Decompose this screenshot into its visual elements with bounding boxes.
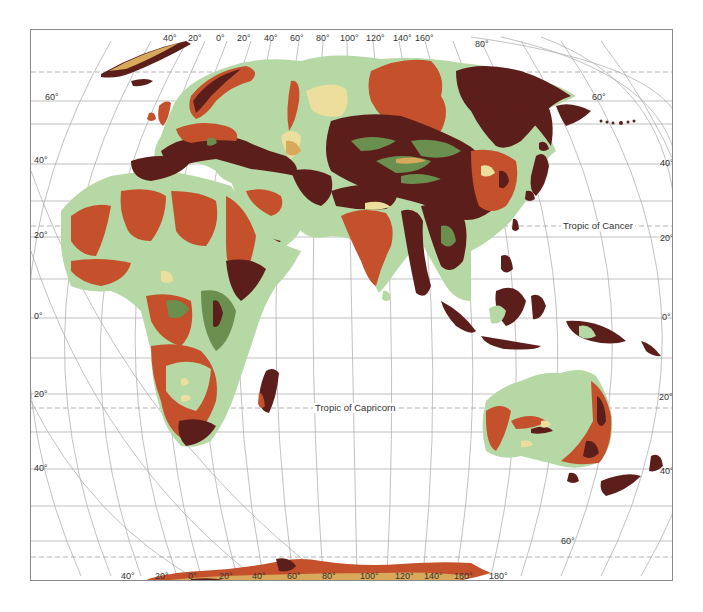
top-lon-label: 40° <box>264 34 278 43</box>
top-lon-label: 0° <box>216 34 225 43</box>
bottom-lon-label: 0° <box>188 572 197 581</box>
left-lat-label: 0° <box>34 312 43 321</box>
top-lon-label: 120° <box>366 34 385 43</box>
right-lat-label: 0° <box>662 313 671 322</box>
iceland <box>131 79 153 86</box>
map-frame: Tropic of Cancer Tropic of Capricorn 40°… <box>30 29 673 581</box>
bottom-right-lat-label: 60° <box>561 537 575 546</box>
bottom-lon-label: 120° <box>395 572 414 581</box>
bottom-lon-label: 60° <box>287 572 301 581</box>
right-lat-label: 20° <box>660 234 673 243</box>
bottom-lon-label: 100° <box>360 572 379 581</box>
left-lat-label: 20° <box>34 231 48 240</box>
tasmania <box>567 473 579 483</box>
right-lat-label: 40° <box>660 467 673 476</box>
kamchatka <box>556 104 591 126</box>
new-zealand <box>601 455 663 496</box>
left-lat-label: 60° <box>45 93 59 102</box>
bottom-lon-label: 20° <box>155 572 169 581</box>
bottom-lon-label: 180° <box>489 572 508 581</box>
top-lon-label: 80° <box>316 34 330 43</box>
bottom-lon-label: 140° <box>424 572 443 581</box>
bottom-lon-label: 160° <box>454 572 473 581</box>
tropic-of-capricorn-label: Tropic of Capricorn <box>313 403 397 413</box>
bottom-lon-label: 40° <box>121 572 135 581</box>
top-lon-label: 20° <box>188 34 202 43</box>
right-lat-label: 40° <box>660 159 673 168</box>
left-lat-label: 40° <box>34 464 48 473</box>
map-canvas <box>31 30 673 581</box>
top-lon-label: 100° <box>340 34 359 43</box>
top-lon-label: 20° <box>237 34 251 43</box>
australia <box>483 370 613 468</box>
right-lat-label: 60° <box>592 93 606 102</box>
top-lon-label: 60° <box>290 34 304 43</box>
top-lon-label: 40° <box>163 34 177 43</box>
left-lat-label: 40° <box>34 156 48 165</box>
bottom-lon-label: 80° <box>322 572 336 581</box>
top-right-lat-label: 80° <box>475 40 489 49</box>
left-lat-label: 20° <box>34 390 48 399</box>
tropic-of-cancer-label: Tropic of Cancer <box>561 221 635 231</box>
indonesia <box>441 255 661 356</box>
right-lat-label: 20° <box>659 393 673 402</box>
top-lon-label: 160° <box>415 34 434 43</box>
top-lon-label: 140° <box>393 34 412 43</box>
bottom-lon-label: 20° <box>219 572 233 581</box>
bottom-lon-label: 40° <box>252 572 266 581</box>
